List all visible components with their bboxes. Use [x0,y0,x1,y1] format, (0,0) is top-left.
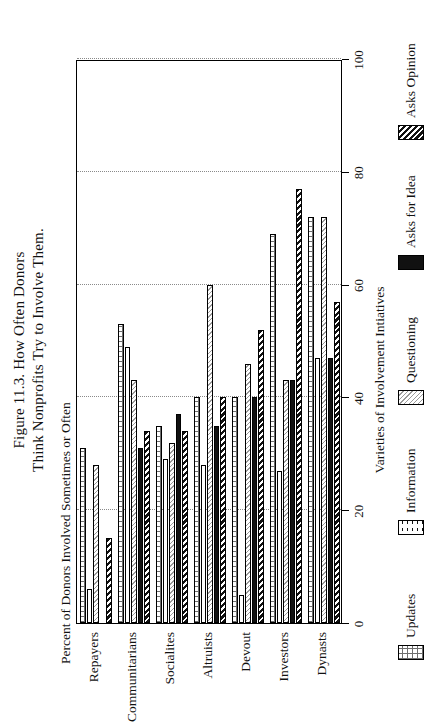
bar-updates-altruists [194,397,200,623]
category-label-dynasts: Dynasts [314,632,330,726]
bar-updates-devout [232,397,238,623]
gridline [77,58,341,59]
bar-asks-for-idea-altruists [214,426,220,623]
bar-asks-for-idea-communitarians [138,448,144,623]
legend-item-questioning: Questioning [398,317,424,405]
axis-tick-label: 40 [351,378,367,418]
category-label-investors: Investors [276,632,292,726]
axis-tick-label: 80 [351,153,367,193]
bar-information-devout [239,595,245,623]
y-axis-label: Percent of Donors Involved Sometimes or … [58,402,74,664]
axis-tick [342,397,349,398]
bar-asks-opinion-dynasts [334,302,340,623]
figure-title-line-2: Think Nonprofits Try to Involve Them. [29,0,48,700]
category-label-altruists: Altruists [200,632,216,726]
x-axis-label: Varieties of Involvement Intiatives [372,60,388,700]
legend-item-information: Information [398,449,424,535]
bar-questioning-repayers [93,465,99,623]
legend-label: Information [403,449,419,513]
bar-questioning-socialites [169,443,175,623]
legend-label: Asks for Idea [403,175,419,248]
bar-information-repayers [87,589,93,623]
bar-updates-communitarians [118,324,124,623]
bar-information-altruists [201,465,207,623]
axis-tick [342,172,349,173]
axis-tick [342,285,349,286]
bar-information-dynasts [315,358,321,623]
gridline [77,171,341,172]
bar-questioning-altruists [207,285,213,623]
figure-title: Figure 11.3. How Often Donors Think Nonp… [10,0,48,700]
bar-information-communitarians [125,347,131,623]
axis-tick-label: 20 [351,491,367,531]
category-label-communitarians: Communitarians [124,632,140,726]
bar-questioning-communitarians [131,380,137,623]
bar-updates-repayers [80,448,86,623]
bar-questioning-investors [283,380,289,623]
axis-tick-label: 100 [351,40,367,80]
legend-label: Updates [403,594,419,638]
legend-swatch-icon [398,645,424,660]
bar-updates-dynasts [308,217,314,623]
bar-information-investors [277,471,283,623]
bar-questioning-dynasts [321,217,327,623]
plot-area [76,60,342,624]
legend-item-updates: Updates [398,594,424,660]
bar-asks-for-idea-investors [290,380,296,623]
bar-asks-opinion-altruists [220,397,226,623]
legend-swatch-icon [398,520,424,535]
bar-updates-socialites [156,426,162,623]
bar-asks-for-idea-devout [252,397,258,623]
axis-tick [342,510,349,511]
bar-asks-for-idea-dynasts [328,358,334,623]
legend-swatch-icon [398,255,424,270]
bar-asks-opinion-investors [296,189,302,623]
legend-swatch-icon [398,390,424,405]
bar-asks-opinion-communitarians [144,431,150,623]
legend-label: Questioning [403,317,419,383]
bar-questioning-devout [245,364,251,623]
axis-tick-label: 0 [351,604,367,644]
chart-legend: UpdatesInformationQuestioningAsks for Id… [398,0,428,700]
axis-tick-label: 60 [351,266,367,306]
bar-asks-for-idea-socialites [176,414,182,623]
bar-asks-opinion-socialites [182,431,188,623]
legend-item-asks-for-idea: Asks for Idea [398,175,424,270]
bar-updates-investors [270,234,276,623]
legend-swatch-icon [398,125,424,140]
legend-label: Asks Opinion [403,43,419,118]
category-label-repayers: Repayers [86,632,102,726]
bar-asks-opinion-devout [258,330,264,623]
bar-asks-opinion-repayers [106,538,112,623]
category-label-devout: Devout [238,632,254,726]
axis-tick [342,59,349,60]
legend-item-asks-opinion: Asks Opinion [398,43,424,140]
category-label-socialites: Socialites [162,632,178,726]
axis-tick [342,623,349,624]
bar-information-socialites [163,459,169,623]
figure-title-line-1: Figure 11.3. How Often Donors [10,0,29,700]
